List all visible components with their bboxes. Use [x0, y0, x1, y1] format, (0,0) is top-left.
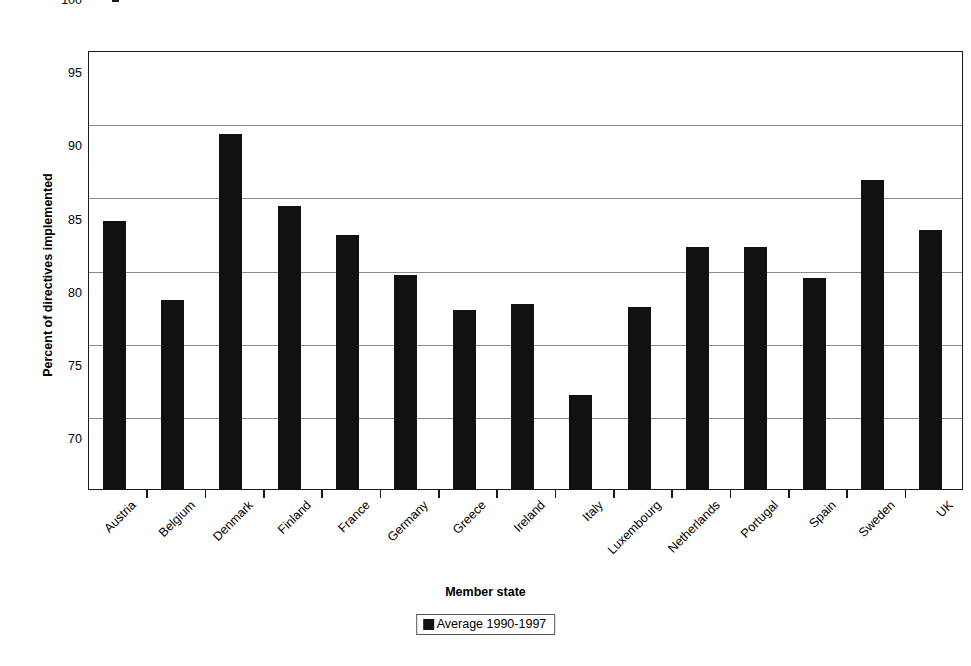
y-tick-mark: [112, 0, 119, 2]
legend-label: Average 1990-1997: [437, 618, 547, 631]
gridline: [89, 345, 962, 346]
y-tick-label: 95: [38, 66, 82, 80]
x-axis-title: Member state: [0, 585, 971, 599]
y-tick-label: 70: [38, 432, 82, 446]
bar-chart: Percent of directives implemented 707580…: [0, 0, 971, 666]
chart-legend: Average 1990-1997: [416, 614, 556, 635]
gridline: [89, 198, 962, 199]
x-tick-label-text: Belgium: [156, 498, 198, 540]
x-tick-label-text: Luxembourg: [605, 498, 664, 557]
plot-area: [88, 51, 963, 490]
y-tick-label: 85: [38, 213, 82, 227]
gridline: [89, 125, 962, 126]
y-axis-ticks: 707580859095100: [30, 0, 82, 439]
gridline: [89, 272, 962, 273]
x-tick-label-text: Austria: [102, 498, 139, 535]
x-tick-label-text: UK: [934, 498, 956, 520]
x-tick-label-text: Netherlands: [665, 498, 723, 556]
x-tick-label-text: France: [335, 498, 372, 535]
y-tick-label: 90: [38, 139, 82, 153]
x-tick-label-text: Ireland: [510, 498, 547, 535]
x-tick-label-text: Spain: [807, 498, 840, 531]
x-tick-label-text: Italy: [580, 498, 606, 524]
x-tick-label-text: Portugal: [738, 498, 781, 541]
legend-swatch-icon: [423, 619, 434, 630]
gridline: [89, 418, 962, 419]
y-tick-label: 75: [38, 359, 82, 373]
x-tick-label-text: Greece: [450, 498, 489, 537]
x-tick-label-text: Sweden: [856, 498, 898, 540]
y-tick-label: 100: [38, 0, 82, 7]
x-axis-labels: AustriaBelgiumDenmarkFinlandFranceGerman…: [88, 498, 963, 576]
x-tick-label-text: Denmark: [210, 498, 256, 544]
x-tick-label-text: Germany: [384, 498, 430, 544]
y-tick-label: 80: [38, 286, 82, 300]
x-tick-label-text: Finland: [275, 498, 314, 537]
